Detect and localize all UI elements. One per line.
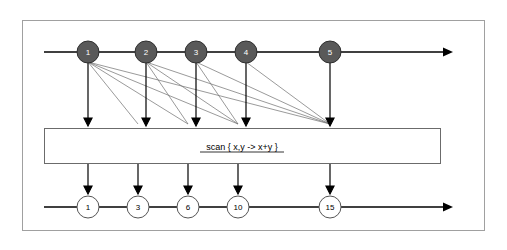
input-node-5[interactable]: 5	[319, 41, 341, 63]
input-node-4-label: 4	[244, 48, 249, 57]
output-node-2-label: 3	[136, 203, 141, 212]
output-node-4-label: 10	[234, 203, 243, 212]
output-node-2[interactable]: 3	[127, 196, 149, 218]
input-node-1[interactable]: 1	[77, 41, 99, 63]
output-node-3[interactable]: 6	[177, 196, 199, 218]
output-node-1-label: 1	[86, 203, 91, 212]
input-node-2-label: 2	[144, 48, 149, 57]
input-node-4[interactable]: 4	[235, 41, 257, 63]
input-node-5-label: 5	[328, 48, 333, 57]
input-node-3-label: 3	[194, 48, 199, 57]
output-node-3-label: 6	[186, 203, 191, 212]
scan-operation-box[interactable]: scan { x,y -> x+y }	[45, 129, 441, 164]
diagram-canvas: 1 2 3 4 5 scan { x,y -> x+y }	[0, 0, 507, 250]
output-node-4[interactable]: 10	[227, 196, 249, 218]
output-node-5-label: 15	[326, 203, 335, 212]
input-node-2[interactable]: 2	[135, 41, 157, 63]
scan-operation-label: scan { x,y -> x+y }	[206, 142, 278, 152]
input-node-3[interactable]: 3	[185, 41, 207, 63]
input-node-1-label: 1	[86, 48, 91, 57]
marble-diagram-svg: 1 2 3 4 5 scan { x,y -> x+y }	[0, 0, 507, 250]
output-node-1[interactable]: 1	[77, 196, 99, 218]
output-node-5[interactable]: 15	[319, 196, 341, 218]
